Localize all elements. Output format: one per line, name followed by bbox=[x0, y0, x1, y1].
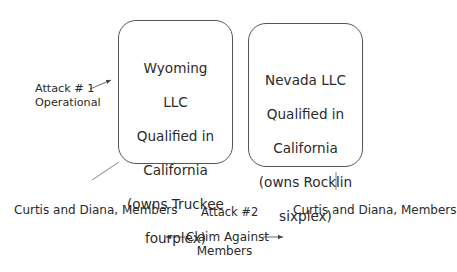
wyoming-llc-box: Wyoming LLC Qualified in California (own… bbox=[118, 20, 233, 164]
attack1-label: Attack # 1 Operational bbox=[35, 82, 101, 110]
right-members-label: Curtis and Diana, Members bbox=[293, 203, 457, 217]
left-members-label: Curtis and Diana, Members bbox=[14, 203, 178, 217]
left-members-connector bbox=[92, 162, 119, 180]
box-line: Nevada LLC bbox=[259, 72, 352, 89]
attack1-title: Attack # 1 bbox=[35, 82, 101, 96]
attack2-label: Attack #2 bbox=[201, 205, 258, 219]
attack1-type: Operational bbox=[35, 96, 101, 110]
box-line: California bbox=[127, 162, 224, 179]
box-line: LLC bbox=[127, 94, 224, 111]
box-line: California bbox=[259, 140, 352, 157]
claim-label: Claim Against Members bbox=[186, 230, 263, 258]
box-line: Qualified in bbox=[127, 128, 224, 145]
claim-line2: Members bbox=[186, 244, 263, 258]
claim-line1: Claim Against bbox=[186, 230, 263, 244]
box-line: Wyoming bbox=[127, 60, 224, 77]
nevada-llc-box: Nevada LLC Qualified in California (owns… bbox=[248, 23, 363, 167]
box-line: (owns Rocklin bbox=[259, 174, 352, 191]
box-line: Qualified in bbox=[259, 106, 352, 123]
